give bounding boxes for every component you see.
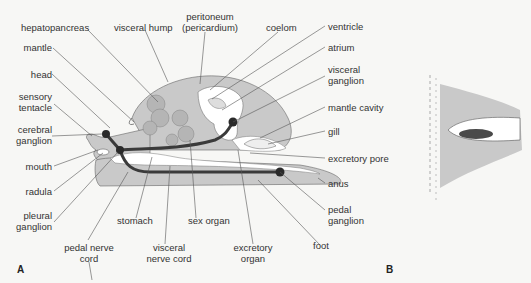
label-visceral-nerve-cord-line2: nerve cord [136,253,202,264]
label-sex-organ: sex organ [188,215,230,226]
label-pleural-ganglion-line2: ganglion [0,221,52,232]
label-hepatopancreas: hepatopancreas [21,22,89,33]
label-foot: foot [313,240,329,251]
label-excretory-pore: excretory pore [328,153,389,164]
label-pedal-nerve-cord: pedal nerve cord [52,242,126,264]
label-anus: anus [328,178,349,189]
panel-b-drawing [430,75,522,200]
label-pedal-nerve-cord-line2: cord [52,253,126,264]
panel-label-b: B [386,264,393,275]
label-pedal-ganglion-line1: pedal [328,204,364,215]
label-peritoneum-line2: (pericardium) [175,22,245,33]
label-cerebral-ganglion-line1: cerebral [0,124,52,135]
label-coelom: coelom [266,22,297,33]
label-sensory-tentacle-line1: sensory [0,91,52,102]
label-sensory-tentacle: sensory tentacle [0,91,52,113]
label-pedal-nerve-cord-line1: pedal nerve [52,242,126,253]
panel-label-a: A [17,264,24,275]
mollusc-diagram [0,0,531,283]
label-atrium: atrium [328,42,354,53]
label-mantle: mantle [0,42,52,53]
label-visceral-ganglion: visceral ganglion [328,64,364,86]
label-peritoneum-line1: peritoneum [175,11,245,22]
label-head: head [0,69,52,80]
label-pleural-ganglion: pleural ganglion [0,210,52,232]
label-visceral-ganglion-line1: visceral [328,64,364,75]
label-visceral-nerve-cord-line1: visceral [136,242,202,253]
label-stomach: stomach [117,215,153,226]
label-cerebral-ganglion: cerebral ganglion [0,124,52,146]
label-cerebral-ganglion-line2: ganglion [0,135,52,146]
label-pedal-ganglion-line2: ganglion [328,215,364,226]
label-excretory-organ: excretory organ [220,242,286,264]
label-excretory-organ-line2: organ [220,253,286,264]
label-mantle-cavity: mantle cavity [328,102,383,113]
label-visceral-hump: visceral hump [114,22,173,33]
label-pleural-ganglion-line1: pleural [0,210,52,221]
label-visceral-ganglion-line2: ganglion [328,75,364,86]
label-visceral-nerve-cord: visceral nerve cord [136,242,202,264]
label-excretory-organ-line1: excretory [220,242,286,253]
label-mouth: mouth [0,161,52,172]
mollusc-body [86,76,341,186]
label-pedal-ganglion: pedal ganglion [328,204,364,226]
label-gill: gill [328,126,340,137]
label-ventricle: ventricle [328,21,363,32]
label-sensory-tentacle-line2: tentacle [0,102,52,113]
label-peritoneum: peritoneum (pericardium) [175,11,245,33]
label-radula: radula [0,186,52,197]
